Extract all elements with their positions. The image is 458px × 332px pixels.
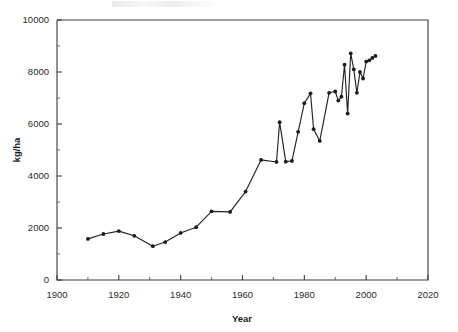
data-point [333, 90, 337, 94]
data-point [244, 190, 248, 194]
data-point [312, 127, 316, 131]
x-tick-label: 1920 [108, 289, 129, 300]
data-point [284, 160, 288, 164]
data-point [210, 209, 214, 213]
data-point [346, 112, 350, 116]
data-point [336, 99, 340, 103]
data-point [278, 120, 282, 124]
y-axis-title: kg/ha [11, 137, 22, 163]
y-tick-label: 0 [44, 274, 49, 285]
data-point [163, 240, 167, 244]
data-point [132, 234, 136, 238]
data-point [327, 91, 331, 95]
x-tick-label: 2000 [356, 289, 377, 300]
line-chart-plot: 0200040006000800010000 19001920194019601… [0, 0, 458, 332]
x-axis-title: Year [232, 313, 252, 324]
y-tick-label: 4000 [28, 170, 49, 181]
data-point [194, 225, 198, 229]
data-point [290, 159, 294, 163]
x-tick-label: 1960 [232, 289, 253, 300]
x-tick-label: 1900 [46, 289, 67, 300]
data-point [355, 91, 359, 95]
data-point [361, 77, 365, 81]
data-series-markers [86, 51, 377, 248]
data-point [309, 91, 313, 95]
data-point [352, 68, 356, 72]
y-tick-label: 8000 [28, 66, 49, 77]
data-point [367, 58, 371, 62]
data-point [302, 101, 306, 105]
data-point [117, 229, 121, 233]
x-axis-major-ticks [57, 275, 428, 280]
data-point [86, 237, 90, 241]
y-tick-label: 2000 [28, 222, 49, 233]
x-axis-tick-labels: 1900192019401960198020002020 [46, 289, 438, 300]
data-series-line [88, 53, 376, 246]
x-tick-label: 2020 [417, 289, 438, 300]
data-point [228, 210, 232, 214]
data-point [318, 139, 322, 143]
data-point [340, 95, 344, 99]
chart-figure: 0200040006000800010000 19001920194019601… [0, 0, 458, 332]
y-tick-label: 10000 [23, 14, 49, 25]
data-point [370, 56, 374, 60]
data-point [275, 160, 279, 164]
data-point [101, 232, 105, 236]
data-point [349, 51, 353, 55]
data-point [179, 231, 183, 235]
data-point [296, 130, 300, 134]
y-tick-label: 6000 [28, 118, 49, 129]
y-axis-tick-labels: 0200040006000800010000 [23, 14, 49, 285]
data-point [374, 54, 378, 58]
data-point [151, 244, 155, 248]
data-point [358, 70, 362, 74]
data-point [259, 158, 263, 162]
x-tick-label: 1980 [294, 289, 315, 300]
x-tick-label: 1940 [170, 289, 191, 300]
data-point [343, 63, 347, 67]
